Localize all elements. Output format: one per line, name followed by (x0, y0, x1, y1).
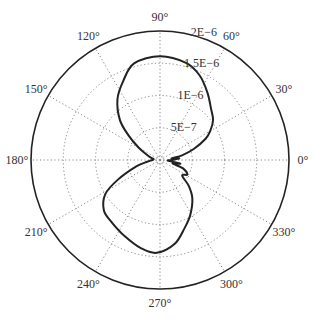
angle-tick-label: 150° (25, 82, 48, 96)
angle-tick-label: 240° (77, 277, 100, 291)
angular-grid-spoke (48, 96, 160, 161)
angular-grid-spoke (160, 160, 225, 272)
angular-grid-spoke (96, 48, 161, 160)
radial-tick-label: 2E−6 (191, 25, 217, 39)
angle-tick-label: 30° (275, 82, 292, 96)
angular-grid-spoke (48, 160, 160, 225)
radial-tick-label: 1E−6 (177, 88, 203, 102)
angle-tick-label: 60° (223, 29, 240, 43)
radial-tick-label: 1.5E−6 (184, 56, 219, 70)
angle-tick-label: 120° (77, 29, 100, 43)
polar-chart: 0°30°60°90°120°150°180°210°240°270°300°3… (0, 0, 319, 322)
angular-grid-spoke (160, 160, 272, 225)
angle-tick-label: 0° (298, 153, 309, 167)
angle-tick-label: 180° (6, 153, 29, 167)
data-series-curve (103, 56, 213, 253)
angle-tick-label: 210° (25, 225, 48, 239)
angle-tick-label: 300° (220, 277, 243, 291)
angle-tick-label: 270° (149, 296, 172, 310)
radial-tick-label: 5E−7 (171, 120, 197, 134)
angle-tick-label: 90° (152, 10, 169, 24)
angular-grid-spoke (96, 160, 161, 272)
angle-tick-label: 330° (272, 225, 295, 239)
angular-grid-spokes (31, 31, 289, 289)
